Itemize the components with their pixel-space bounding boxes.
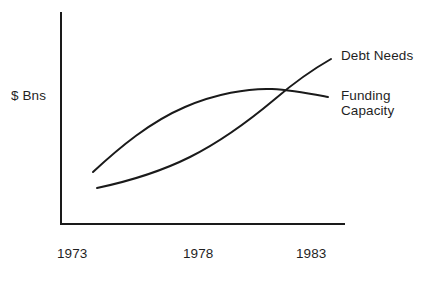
chart-figure: $ Bns 1973 1978 1983 Debt Needs FundingC… bbox=[0, 0, 438, 283]
series-label-funding-capacity-line1: Funding bbox=[341, 88, 391, 103]
x-axis-tick-label: 1978 bbox=[183, 246, 213, 261]
series-label-funding-capacity: FundingCapacity bbox=[341, 88, 394, 118]
chart-plot-area bbox=[0, 0, 438, 283]
y-axis-label: $ Bns bbox=[11, 88, 46, 103]
series-label-debt-needs: Debt Needs bbox=[341, 48, 413, 63]
x-axis-tick-label: 1983 bbox=[296, 246, 326, 261]
x-axis-tick-label: 1973 bbox=[57, 246, 87, 261]
series-line-debt-needs bbox=[97, 59, 331, 188]
series-line-funding-capacity bbox=[93, 89, 328, 172]
series-label-funding-capacity-line2: Capacity bbox=[341, 103, 394, 118]
